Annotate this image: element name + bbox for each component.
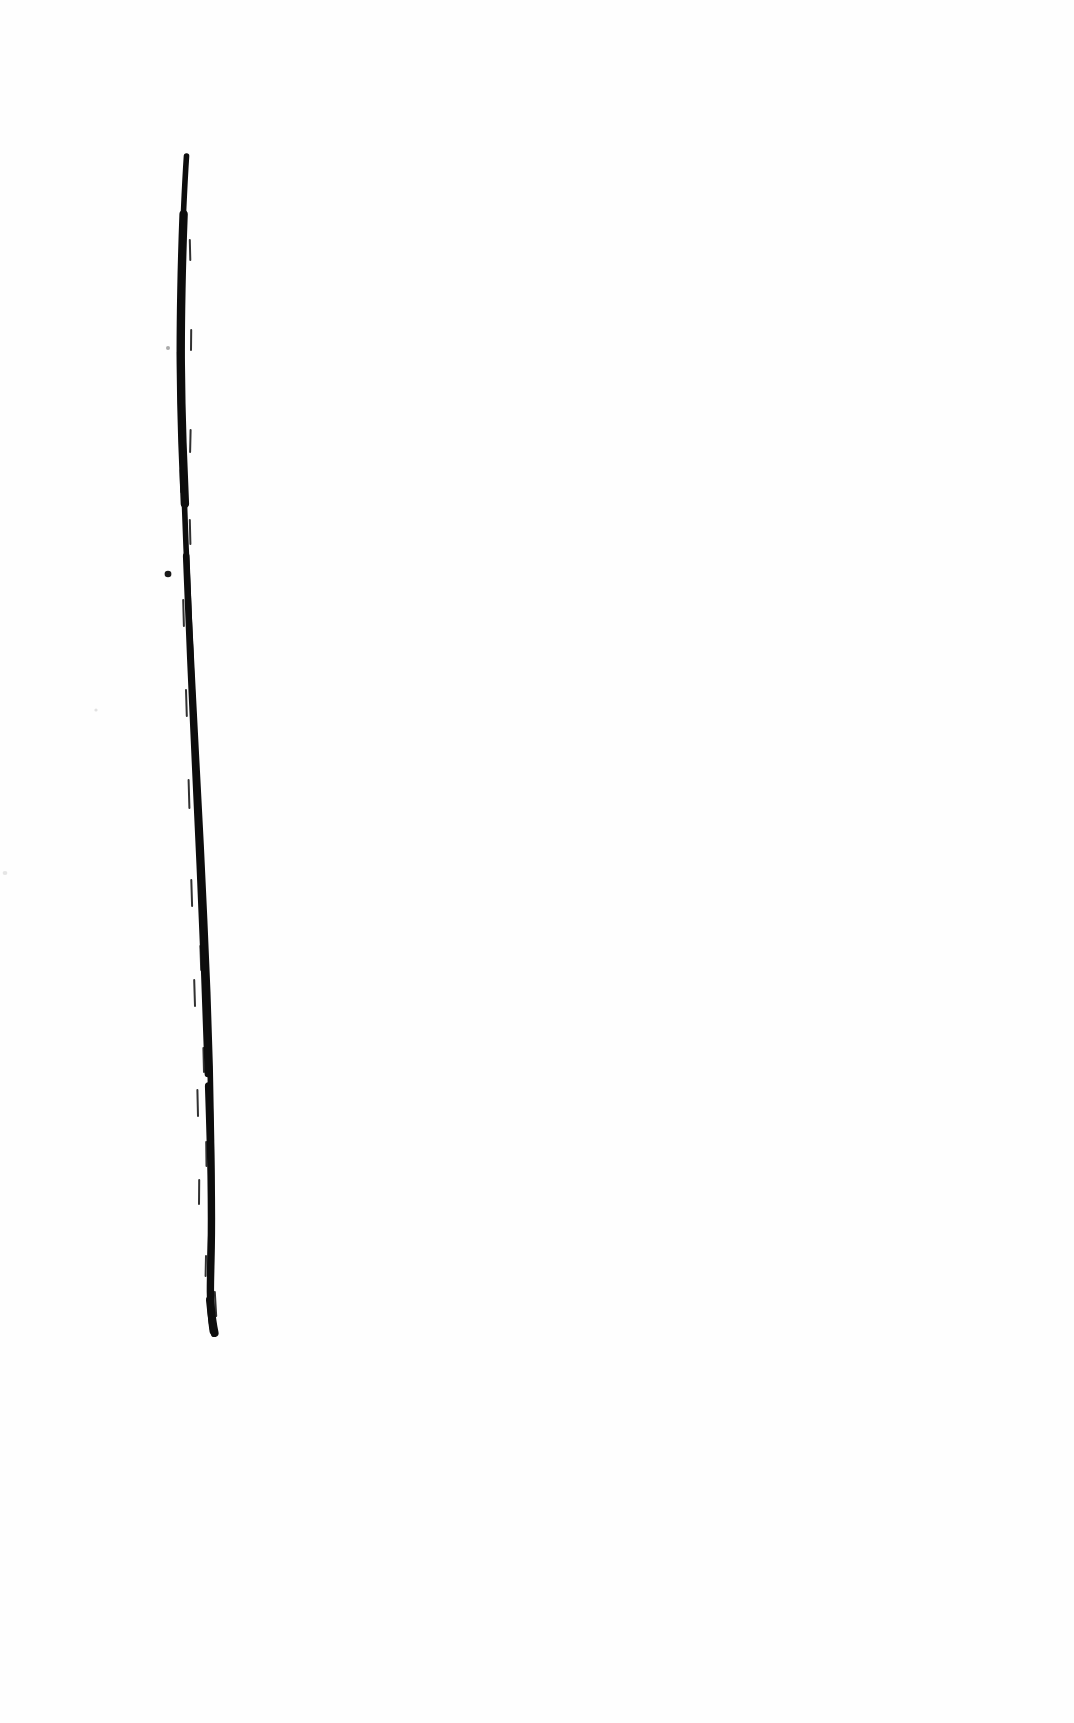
speck-upper xyxy=(166,346,170,350)
speck-faint-left xyxy=(94,708,97,711)
ink-stroke-bulge-upper xyxy=(181,214,185,504)
ink-stroke-top-taper xyxy=(185,156,187,186)
ink-stroke-body-lower xyxy=(209,1086,214,1331)
scanned-page: Single hand-drawn near-vertical ink line… xyxy=(0,0,1074,1723)
speck-lower xyxy=(207,1101,211,1106)
ink-stroke-body-mid xyxy=(186,556,208,1074)
ink-artwork-layer xyxy=(0,0,1074,1723)
ink-stroke-bottom-tip xyxy=(210,1300,215,1333)
vertical-ink-stroke-group xyxy=(3,156,217,1334)
speck-faint-edge xyxy=(3,871,8,875)
speck-mid xyxy=(165,571,172,577)
